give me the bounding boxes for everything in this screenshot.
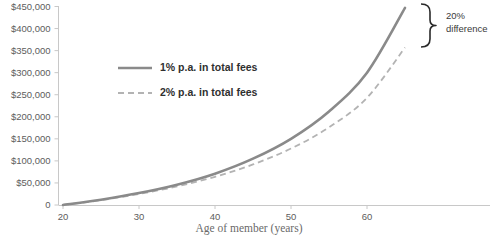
y-tick-label: $350,000 [11,45,51,56]
brace-icon [421,4,436,47]
y-tick-label: $100,000 [11,155,51,166]
y-axis-group: 0$50,000$100,000$150,000$200,000$250,000… [11,1,59,211]
x-tick-label: 20 [58,211,69,222]
y-tick-label: $300,000 [11,67,51,78]
x-tick-labels: 2030405060 [58,211,373,222]
legend-label-1pct: 1% p.a. in total fees [160,61,258,73]
legend-label-2pct: 2% p.a. in total fees [160,86,258,98]
annotation-line-1: 20% [446,10,466,21]
y-tick-label: $450,000 [11,1,51,12]
fees-growth-line-chart: 0$50,000$100,000$150,000$200,000$250,000… [0,0,497,238]
plot-series-group [63,8,405,205]
x-axis-group: 2030405060 [58,205,490,222]
x-tick-label: 30 [134,211,145,222]
x-axis-title: Age of member (years) [196,222,303,235]
x-tick-label: 50 [286,211,297,222]
y-tick-label: 0 [45,199,50,210]
difference-annotation: 20% difference [421,4,488,47]
y-tick-label: $400,000 [11,23,51,34]
y-tick-labels: 0$50,000$100,000$150,000$200,000$250,000… [11,1,51,211]
y-tick-label: $150,000 [11,133,51,144]
y-tick-label: $250,000 [11,89,51,100]
series-line-1pct [63,8,405,205]
x-tick-label: 60 [362,211,373,222]
legend: 1% p.a. in total fees 2% p.a. in total f… [118,61,258,98]
x-tick-label: 40 [210,211,221,222]
annotation-line-2: difference [446,23,488,34]
y-tick-label: $200,000 [11,111,51,122]
y-tick-label: $50,000 [16,177,50,188]
y-tick-marks [55,7,59,206]
chart-container: 0$50,000$100,000$150,000$200,000$250,000… [0,0,497,238]
